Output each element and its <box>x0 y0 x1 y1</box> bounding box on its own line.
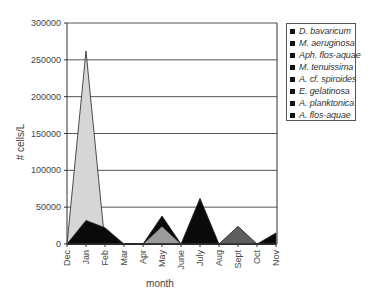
y-axis-title: # cells/L <box>15 123 26 160</box>
legend-label: M. tenuissima <box>299 62 353 72</box>
legend-item: A. planktonica <box>290 97 355 109</box>
legend-label: D. bavaricum <box>299 26 351 36</box>
legend-item: A. flos-aquae <box>290 109 355 121</box>
legend-swatch-icon <box>290 65 295 70</box>
legend-label: A. flos-aquae <box>299 110 351 120</box>
plot-areas <box>67 51 276 244</box>
y-tick-label: 200000 <box>31 92 61 102</box>
legend-label: E. gelatinosa <box>299 86 350 96</box>
legend-swatch-icon <box>290 41 295 46</box>
area-series <box>67 51 276 244</box>
legend-swatch-icon <box>290 89 295 94</box>
x-tick-label: Nov <box>271 250 281 267</box>
x-tick-label: May <box>157 250 167 268</box>
legend-item: M. tenuissima <box>290 61 355 73</box>
legend-label: Aph. flos-aquae <box>299 50 361 60</box>
legend-swatch-icon <box>290 101 295 106</box>
y-tick-label: 300000 <box>31 18 61 28</box>
legend-swatch-icon <box>290 53 295 58</box>
x-tick-label: Feb <box>100 250 110 266</box>
y-tick-label: 150000 <box>31 129 61 139</box>
x-tick-label: Apr <box>138 250 148 264</box>
x-tick-label: Oct <box>252 250 262 265</box>
y-tick-label: 50000 <box>36 202 61 212</box>
legend-item: D. bavaricum <box>290 25 355 37</box>
legend-item: M. aeruginosa <box>290 37 355 49</box>
y-tick-label: 100000 <box>31 165 61 175</box>
x-axis-title: month <box>146 278 174 289</box>
y-tick-label: 250000 <box>31 55 61 65</box>
y-axis-ticks: 050000100000150000200000250000300000 <box>31 18 67 249</box>
x-tick-label: June <box>176 250 186 270</box>
x-tick-label: Dec <box>62 250 72 267</box>
legend-item: Aph. flos-aquae <box>290 49 355 61</box>
x-tick-label: Jan <box>81 250 91 265</box>
x-tick-label: Mar <box>119 250 129 266</box>
x-axis-ticks: DecJanFebMarAprMayJuneJulyAugSeptOctNov <box>62 244 281 270</box>
x-tick-label: Aug <box>214 250 224 266</box>
legend-swatch-icon <box>290 113 295 118</box>
legend-item: A. cf. spiroides <box>290 73 355 85</box>
legend-label: A. cf. spiroides <box>299 74 356 84</box>
legend-swatch-icon <box>290 77 295 82</box>
legend-label: A. planktonica <box>299 98 354 108</box>
legend-item: E. gelatinosa <box>290 85 355 97</box>
x-tick-label: July <box>195 250 205 267</box>
legend: D. bavaricum M. aeruginosa Aph. flos-aqu… <box>286 23 356 121</box>
y-tick-label: 0 <box>56 239 61 249</box>
legend-swatch-icon <box>290 29 295 34</box>
x-tick-label: Sept <box>233 250 243 269</box>
legend-label: M. aeruginosa <box>299 38 355 48</box>
